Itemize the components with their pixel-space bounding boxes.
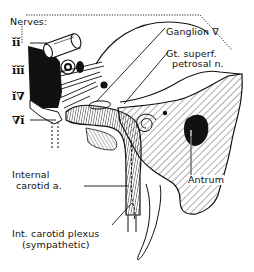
- dot-foramen: [100, 81, 107, 88]
- dot-small: [163, 111, 167, 115]
- plexus-label-line1: Int. carotid plexus: [12, 229, 99, 239]
- nerves-heading: Nerves:: [10, 17, 47, 27]
- styloid-process: [138, 184, 161, 260]
- plexus-label-line2: (sympathetic): [22, 240, 90, 250]
- abducens-nerve: [52, 122, 58, 150]
- internal-carotid-artery: [66, 105, 141, 215]
- nerve-ii-label: ĭĭ: [12, 37, 20, 48]
- carotid-canal-wall: [86, 128, 117, 150]
- ganglion-label: Ganglion ∇: [166, 27, 219, 37]
- nerve-vi-label: ∇ĭ: [12, 115, 24, 126]
- nerve-iii-label: ĭĭĭ: [12, 65, 25, 76]
- gt-superf-label-line2: petrosal n.: [172, 59, 224, 69]
- nerve-iv-label: ĭ∇: [12, 91, 24, 102]
- internal-carotid-label-line1: Internal: [12, 170, 49, 180]
- optic-nerve-cylinder: [42, 32, 83, 59]
- internal-carotid-label-line2: carotid a.: [16, 181, 62, 191]
- antrum-label: Antrum: [188, 175, 224, 185]
- ganglion-leader: [96, 28, 165, 102]
- anatomy-diagram: Nerves: ĭĭ ĭĭĭ ĭ∇ ∇ĭ Ganglion ∇ Gt. supe…: [0, 0, 254, 272]
